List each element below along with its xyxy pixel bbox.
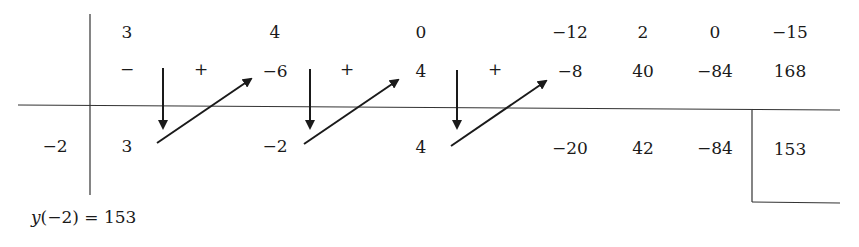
remainder-value: 153 [774,139,806,159]
product-value: 40 [632,61,654,81]
product-value: −84 [697,61,733,81]
product-value: 4 [416,61,427,81]
conclusion: y(−2) = 153 [31,207,136,227]
diagonal-arrow-icon [157,79,251,143]
plus-sign: + [488,59,502,79]
coefficient: −15 [772,22,808,42]
coefficient: −12 [552,22,588,42]
plus-sign: + [340,59,354,79]
divisor-root: −2 [42,136,67,156]
result-value: 42 [632,138,654,158]
diagonal-arrow-icon [451,81,546,146]
coefficient: 2 [638,22,649,42]
product-value: 168 [774,61,806,81]
function-value: = 153 [79,207,137,227]
coefficient: 4 [270,22,281,42]
plus-sign: + [194,59,208,79]
coefficient: 0 [416,22,427,42]
function-argument: (−2) [41,207,79,227]
result-value: 4 [416,137,427,157]
remainder-box-bottom [752,202,840,203]
product-value: −8 [557,61,582,81]
result-value: 3 [122,136,133,156]
coefficient: 3 [122,22,133,42]
function-name: y [31,207,41,227]
horizontal-divider [18,105,840,110]
diagonal-arrow-icon [304,80,398,144]
result-value: −84 [697,138,733,158]
result-value: −2 [262,136,287,156]
coefficient: 0 [710,22,721,42]
product-value: −6 [262,61,287,81]
result-value: −20 [552,138,588,158]
minus-sign: − [120,59,134,79]
